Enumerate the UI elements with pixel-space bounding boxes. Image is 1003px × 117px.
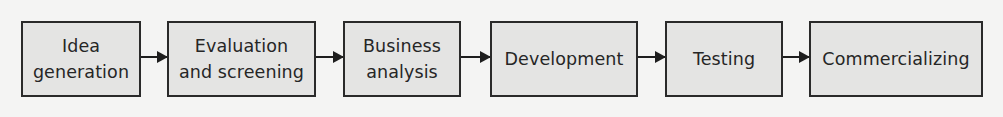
arrow-right-icon — [316, 56, 343, 58]
step-business-analysis: Business analysis — [343, 21, 461, 97]
arrow-right-icon — [783, 56, 809, 58]
step-label: Development — [505, 46, 624, 72]
new-product-development-flowchart: Idea generation Evaluation and screening… — [0, 0, 1003, 117]
step-label: Commercializing — [822, 46, 969, 72]
step-label: Idea generation — [33, 33, 129, 85]
step-idea-generation: Idea generation — [21, 21, 141, 97]
step-testing: Testing — [665, 21, 783, 97]
step-label: Evaluation and screening — [179, 33, 304, 85]
step-development: Development — [490, 21, 638, 97]
step-label: Testing — [693, 46, 755, 72]
step-label: Business analysis — [363, 33, 441, 85]
arrow-right-icon — [638, 56, 665, 58]
arrow-right-icon — [141, 56, 167, 58]
step-evaluation-and-screening: Evaluation and screening — [167, 21, 316, 97]
step-commercializing: Commercializing — [809, 21, 983, 97]
arrow-right-icon — [461, 56, 490, 58]
